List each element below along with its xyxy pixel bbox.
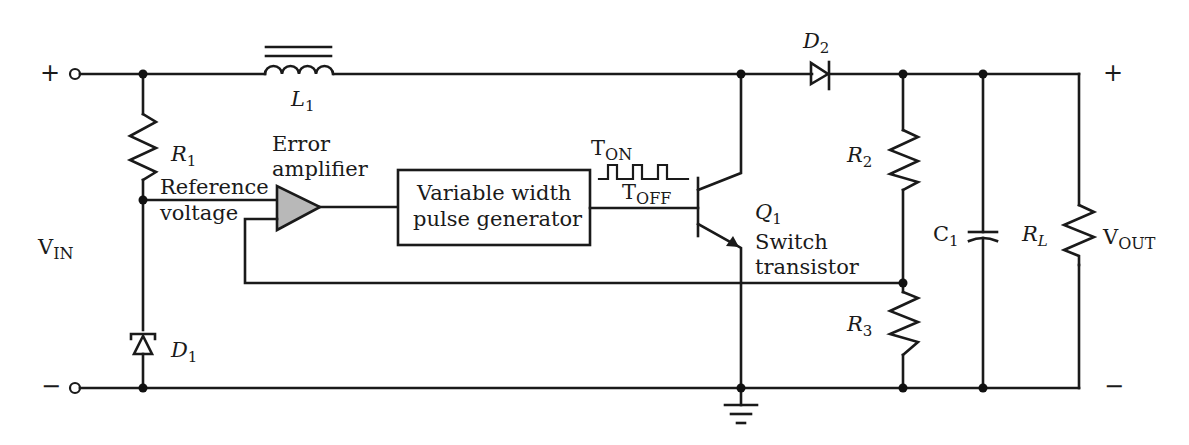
- d2-sub: 2: [820, 39, 830, 57]
- input-plus-label: +: [40, 61, 60, 85]
- output-plus-label: +: [1103, 61, 1123, 85]
- vout-main: V: [1103, 225, 1118, 249]
- resistor-r2-icon: [890, 74, 918, 283]
- vout-label: VOUT: [1103, 227, 1155, 252]
- r3-sub: 3: [863, 322, 873, 340]
- l1-sub: 1: [305, 97, 315, 115]
- l1-main: L: [291, 87, 305, 111]
- q1-main: Q: [755, 200, 772, 224]
- input-plus-terminal: [70, 69, 80, 79]
- reference-voltage-label-line1: Reference: [160, 177, 269, 198]
- vin-label: VIN: [38, 237, 74, 262]
- l1-label: L1: [291, 89, 315, 114]
- d2-main: D: [803, 29, 820, 53]
- ton-sub: ON: [605, 145, 632, 164]
- error-amplifier-icon: [277, 186, 320, 230]
- c1-sub: 1: [949, 232, 959, 250]
- rl-label: RL: [1022, 224, 1048, 249]
- pulse-waveform-icon: [599, 165, 688, 179]
- r1-main: R: [171, 142, 187, 166]
- d2-label: D2: [803, 31, 829, 56]
- input-minus-terminal: [70, 383, 80, 393]
- input-minus-label: −: [41, 374, 61, 398]
- q1-label: Q1: [755, 202, 782, 227]
- inductor-l1-icon: [265, 47, 333, 74]
- d1-main: D: [171, 338, 188, 362]
- r2-label: R2: [847, 145, 872, 170]
- r3-main: R: [847, 312, 863, 336]
- r1-label: R1: [171, 144, 196, 169]
- resistor-r3-icon: [890, 283, 918, 388]
- rl-main: R: [1022, 222, 1038, 246]
- r3-label: R3: [847, 314, 872, 339]
- error-amplifier-label-line2: amplifier: [272, 159, 368, 180]
- zener-diode-d1-icon: [131, 334, 155, 388]
- toff-sub: OFF: [636, 189, 671, 208]
- vin-sub: IN: [53, 244, 73, 263]
- c1-label: C1: [933, 224, 959, 249]
- ground-icon: [725, 388, 757, 423]
- c1-main: C: [933, 222, 949, 246]
- vin-main: V: [38, 235, 53, 259]
- ton-main: T: [591, 136, 605, 160]
- switch-transistor-label-line1: Switch: [755, 232, 828, 253]
- ton-label: TON: [591, 138, 632, 163]
- diode-d2-icon: [811, 62, 829, 89]
- vout-sub: OUT: [1118, 234, 1155, 253]
- r2-sub: 2: [863, 153, 873, 171]
- capacitor-c1-icon: [969, 74, 997, 388]
- pulse-generator-label-line1: Variable width: [417, 183, 571, 204]
- d1-label: D1: [171, 340, 197, 365]
- pulse-generator-label-line2: pulse generator: [413, 209, 582, 230]
- output-minus-label: −: [1104, 374, 1124, 398]
- q1-sub: 1: [772, 210, 782, 228]
- r1-sub: 1: [187, 152, 197, 170]
- d1-sub: 1: [188, 348, 198, 366]
- resistor-rl-icon: [1064, 205, 1094, 265]
- toff-label: TOFF: [622, 182, 671, 207]
- switch-transistor-label-line2: transistor: [755, 257, 859, 278]
- transistor-q1-icon: [698, 74, 741, 388]
- error-amplifier-label-line1: Error: [272, 134, 330, 155]
- r2-main: R: [847, 143, 863, 167]
- toff-main: T: [622, 180, 636, 204]
- rl-sub: L: [1038, 232, 1048, 250]
- reference-voltage-label-line2: voltage: [160, 203, 238, 224]
